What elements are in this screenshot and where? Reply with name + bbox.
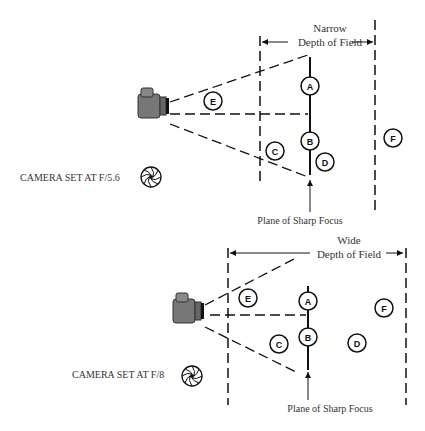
bottom-title-line2: Depth of Field: [317, 248, 382, 260]
svg-text:C: C: [272, 147, 279, 157]
top-diagram: Narrow Depth of Field A B C D E F CAMERA…: [20, 20, 402, 226]
svg-text:A: A: [307, 82, 314, 92]
point-d: D: [316, 153, 334, 171]
bottom-diagram: Wide Depth of Field A B C D E F CAMERA S…: [72, 234, 406, 414]
camera-icon: [138, 88, 169, 118]
bottom-camera-setting: CAMERA SET AT F/8: [72, 369, 164, 380]
top-camera-setting: CAMERA SET AT F/5.6: [20, 172, 120, 183]
point-c: C: [270, 335, 288, 353]
point-a: A: [301, 77, 319, 95]
point-f: F: [375, 299, 393, 317]
svg-text:E: E: [210, 97, 216, 107]
bottom-title-line1: Wide: [337, 234, 360, 246]
camera-icon: [173, 293, 204, 323]
point-d: D: [348, 334, 366, 352]
depth-of-field-diagram: Narrow Depth of Field A B C D E F CAMERA…: [0, 0, 425, 431]
bottom-plane-label: Plane of Sharp Focus: [287, 403, 372, 414]
view-cone: [205, 258, 306, 372]
point-a: A: [299, 292, 317, 310]
aperture-icon: [141, 167, 161, 187]
view-cone: [170, 55, 308, 177]
aperture-icon: [182, 366, 202, 386]
point-e: E: [204, 92, 222, 110]
point-e: E: [239, 289, 257, 307]
svg-text:B: B: [307, 137, 314, 147]
point-b: B: [299, 328, 317, 346]
svg-text:F: F: [390, 134, 396, 144]
svg-text:D: D: [322, 158, 329, 168]
point-c: C: [266, 142, 284, 160]
svg-text:D: D: [354, 339, 361, 349]
svg-text:B: B: [305, 333, 312, 343]
point-f: F: [384, 129, 402, 147]
svg-text:F: F: [381, 304, 387, 314]
svg-text:E: E: [245, 294, 251, 304]
svg-text:A: A: [305, 297, 312, 307]
top-title-line1: Narrow: [313, 22, 347, 34]
svg-text:C: C: [276, 340, 283, 350]
top-plane-label: Plane of Sharp Focus: [257, 215, 342, 226]
point-b: B: [301, 132, 319, 150]
